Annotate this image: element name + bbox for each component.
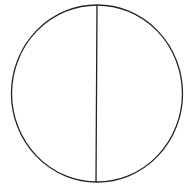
bisected-circle-diagram — [0, 0, 189, 189]
diagram-canvas — [0, 0, 189, 189]
vertical-divider-line — [96, 5, 97, 182]
